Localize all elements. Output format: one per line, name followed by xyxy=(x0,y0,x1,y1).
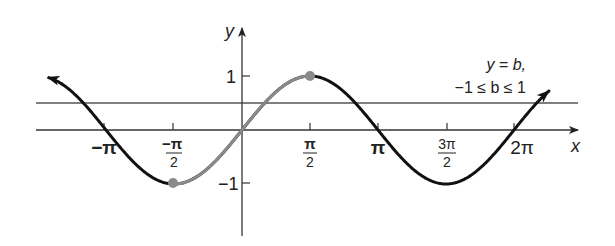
y-axis-label: y xyxy=(223,21,235,41)
x-tick-label-pi: π xyxy=(371,137,386,158)
x-tick-label-half-pi: π 2 xyxy=(303,135,317,170)
y-tick-label-neg1: −1 xyxy=(218,174,239,194)
x-axis-label: x xyxy=(570,136,581,156)
x-tick-label-three-half-pi: 3π 2 xyxy=(438,136,456,170)
x-tick-label-neg-half-pi: −π 2 xyxy=(162,135,183,170)
hline-label-line2: −1 ≤ b ≤ 1 xyxy=(455,79,526,96)
x-tick-label-neg-pi: −π xyxy=(91,137,117,158)
sine-graph: y x 1 −1 −π −π 2 π 2 π 3π 2 2π y = b, −1… xyxy=(0,0,615,246)
x-ticks xyxy=(104,123,514,130)
svg-text:2: 2 xyxy=(170,154,178,170)
svg-text:2: 2 xyxy=(443,154,451,170)
point-half-pi xyxy=(305,71,315,81)
x-tick-label-two-pi: 2π xyxy=(510,137,534,158)
svg-text:3π: 3π xyxy=(438,136,456,152)
svg-text:−π: −π xyxy=(162,135,183,152)
svg-text:2: 2 xyxy=(306,154,314,170)
hline-label-line1: y = b, xyxy=(485,56,526,73)
svg-text:π: π xyxy=(304,135,316,152)
sine-curve-left-segment xyxy=(48,77,63,84)
y-tick-label-1: 1 xyxy=(226,67,236,87)
point-neg-half-pi xyxy=(168,178,178,188)
